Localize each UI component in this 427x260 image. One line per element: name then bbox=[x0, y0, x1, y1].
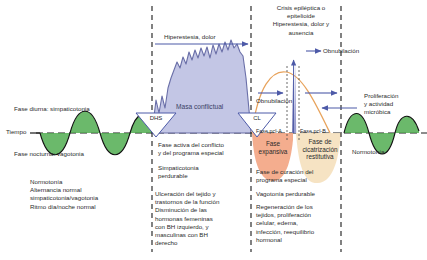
fase-restitutiva-label: Fase de cicatrización restitutiva bbox=[297, 138, 343, 161]
hiperestesia-label: Hiperestesia, dolor bbox=[164, 33, 216, 40]
cl-label: CL bbox=[243, 115, 271, 121]
normotonia-wave-left bbox=[40, 111, 152, 155]
conflict-mass-label: Masa conflictual bbox=[176, 103, 223, 110]
obnubilacion-top-label: Obnubilación bbox=[323, 47, 359, 54]
time-axis-label: Tiempo bbox=[6, 128, 26, 136]
normotonia-right-label: Normotonía bbox=[352, 148, 384, 156]
obnubilacion-left-label: Obnubilación bbox=[256, 97, 292, 104]
fase-pcl-a-label: Fase pcl-A bbox=[256, 128, 282, 134]
left-normotonia-block: Normotonía Alternancia normal simpaticot… bbox=[30, 178, 150, 211]
fase-nocturna-label: Fase nocturna: vagotonia bbox=[14, 150, 84, 158]
middle-block-1: Fase activa del conflicto y del programa… bbox=[158, 141, 253, 157]
fase-expansiva-label: Fase expansiva bbox=[254, 140, 292, 155]
middle-block-2: Simpaticotonia perdurable bbox=[158, 164, 253, 180]
right-block-1: Fase de curación del programa especial bbox=[256, 168, 344, 184]
crisis-epileptica-label: Crisis epiléptica o epitelioide Hiperest… bbox=[249, 4, 353, 37]
diagram-canvas: DHS CL Tiempo Fase diurna: simpaticotoni… bbox=[0, 0, 427, 260]
epileptic-crisis-spike bbox=[292, 60, 296, 133]
fase-diurna-label: Fase diurna: simpaticotonia bbox=[14, 105, 90, 113]
fase-pcl-b-label: Fase pcl-B bbox=[300, 128, 326, 134]
right-block-3: Regeneración de los tejidos, proliferaci… bbox=[256, 203, 346, 244]
middle-block-3: Ulceración del tejido y trastornos de la… bbox=[155, 190, 254, 247]
proliferacion-label: Proliferación y actividad micróbica bbox=[364, 92, 426, 117]
right-block-2: Vagotonía perdurable bbox=[256, 190, 344, 198]
dhs-label: DHS bbox=[140, 115, 172, 121]
